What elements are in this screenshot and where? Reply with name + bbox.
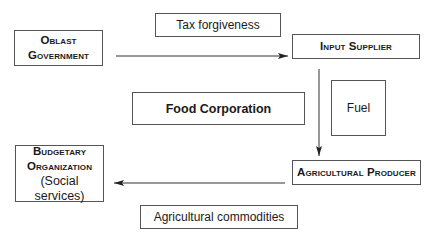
- flow-label-text: Agricultural commodities: [154, 210, 285, 225]
- node-oblast-government: Oblast Government: [14, 30, 103, 66]
- label-agricultural-commodities: Agricultural commodities: [140, 205, 298, 229]
- node-label-line1: Budgetary: [33, 144, 86, 159]
- node-label: Input Supplier: [320, 39, 392, 54]
- node-label-line3: (Social services): [16, 174, 103, 204]
- node-label: Food Corporation: [166, 102, 272, 116]
- node-label: Agricultural Producer: [297, 165, 416, 180]
- node-food-corporation: Food Corporation: [132, 92, 305, 125]
- flow-label-text: Tax forgiveness: [176, 18, 259, 33]
- node-agricultural-producer: Agricultural Producer: [292, 160, 421, 185]
- flow-label-text: Fuel: [347, 101, 370, 116]
- node-label-line2: Organization: [27, 159, 92, 174]
- label-fuel: Fuel: [331, 80, 386, 136]
- label-tax-forgiveness: Tax forgiveness: [155, 13, 281, 37]
- node-input-supplier: Input Supplier: [292, 34, 420, 59]
- node-budgetary-organization: Budgetary Organization (Social services): [15, 145, 104, 202]
- node-label-line1: Oblast: [40, 33, 76, 48]
- node-label-line2: Government: [28, 48, 89, 63]
